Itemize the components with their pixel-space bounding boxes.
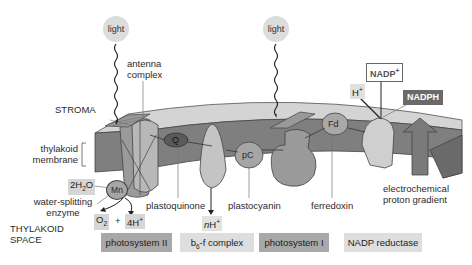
plastocyanin-label: plastocyanin [228,200,281,211]
antenna-line1: antenna [127,58,162,69]
antenna-line2: complex [127,69,162,80]
light-label: light [108,24,125,34]
proton-gradient-label: electrochemical proton gradient [383,183,449,205]
thylakoid-space-line1: THYLAKOID [10,223,64,234]
plastoquinone-label: plastoquinone [146,200,205,211]
h-plus-chip: H+ [350,84,365,99]
stroma-label: STROMA [55,104,96,115]
nadp-plus-box: NADP+ [366,63,403,82]
thylakoid-space-label: THYLAKOID SPACE [10,223,64,245]
nh-plus-chip: nH+ [202,216,222,231]
light-source-1: light [103,16,129,42]
thylakoid-diagram: light light STROMA thylakoid membrane TH… [0,0,472,265]
q-label: Q [172,135,179,146]
legend-photosystem-i: photosystem I [259,233,329,252]
membrane-label: thylakoid membrane [22,143,78,165]
ferredoxin-label: ferredoxin [311,200,353,211]
pc-label: pC [242,150,254,161]
antenna-complex-label: antenna complex [127,58,162,80]
mn-label: Mn [111,185,123,195]
plus-sign: + [115,215,121,226]
membrane-label-line2: membrane [22,154,78,165]
oxygen-chip: O2 [94,214,109,230]
membrane-label-line1: thylakoid [22,143,78,154]
thylakoid-space-line2: SPACE [10,234,64,245]
light-label: light [268,24,285,34]
membrane-illustration [0,0,472,265]
legend-b6f-complex: b6-f complex [180,233,254,252]
water-chip: 2H2O [68,179,95,195]
light-source-2: light [263,16,289,42]
fd-label: Fd [328,119,339,130]
mn-cluster: Mn [106,180,128,200]
nadph-box: NADPH [403,90,443,105]
water-splitting-enzyme-label: water-splitting enzyme [30,196,96,218]
legend-nadp-reductase: NADP reductase [344,233,422,252]
protons-chip: 4H+ [125,214,145,229]
legend-photosystem-ii: photosystem II [101,233,172,252]
